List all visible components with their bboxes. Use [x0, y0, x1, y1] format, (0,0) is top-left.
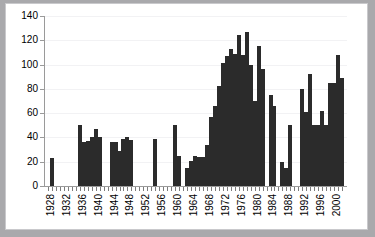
x-axis-tick-label: 1948 — [125, 194, 135, 216]
y-axis-tick-label: 20 — [27, 157, 38, 167]
x-axis-tick — [199, 187, 200, 191]
x-axis-tick — [267, 187, 268, 191]
x-axis-tick — [298, 187, 299, 191]
x-axis-tick — [278, 187, 279, 191]
x-axis-tick-label: 1980 — [253, 194, 263, 216]
x-axis-tick — [167, 187, 168, 191]
x-axis-tick — [171, 187, 172, 191]
y-axis-tick-label: 60 — [27, 108, 38, 118]
x-axis-tick — [314, 187, 315, 191]
x-axis-tick — [175, 187, 176, 191]
x-axis-tick — [247, 187, 248, 191]
x-axis-tick-label: 1952 — [141, 194, 151, 216]
x-axis-tick-label: 1988 — [284, 194, 294, 216]
x-axis-tick — [68, 187, 69, 191]
x-axis-tick — [187, 187, 188, 191]
y-axis-tick-label: 140 — [21, 11, 38, 21]
x-axis-tick-label: 1960 — [173, 194, 183, 216]
x-axis-tick — [131, 187, 132, 191]
bar — [340, 78, 344, 186]
x-axis-tick — [147, 187, 148, 191]
bar — [98, 137, 102, 186]
x-axis-tick-label: 1992 — [300, 194, 310, 216]
x-axis-tick-label: 1940 — [94, 194, 104, 216]
x-axis-tick — [195, 187, 196, 191]
x-axis-tick-label: 1928 — [46, 194, 56, 216]
x-axis-tick-label: 1944 — [110, 194, 120, 216]
x-axis-tick — [108, 187, 109, 191]
x-axis-tick — [203, 187, 204, 191]
x-axis-tick — [211, 187, 212, 191]
x-axis-tick — [326, 187, 327, 191]
x-axis-tick — [255, 187, 256, 191]
x-axis-tick — [318, 187, 319, 191]
x-axis-tick — [92, 187, 93, 191]
bar — [261, 69, 265, 186]
x-axis-tick — [60, 187, 61, 191]
x-axis-tick — [116, 187, 117, 191]
x-axis-tick — [251, 187, 252, 191]
x-axis-tick — [227, 187, 228, 191]
x-axis-tick-label: 1996 — [316, 194, 326, 216]
x-axis-tick — [263, 187, 264, 191]
bar — [177, 156, 181, 186]
x-axis-tick — [235, 187, 236, 191]
x-axis-tick — [274, 187, 275, 191]
x-axis-tick — [271, 187, 272, 191]
x-axis-tick — [88, 187, 89, 191]
x-axis-tick — [334, 187, 335, 191]
x-axis-tick — [56, 187, 57, 191]
x-axis-tick — [342, 187, 343, 191]
chart-frame: 020406080100120140 192819321936194019441… — [5, 3, 368, 230]
x-axis-tick — [104, 187, 105, 191]
x-axis-tick-label: 1936 — [78, 194, 88, 216]
x-axis-tick-label: 1972 — [221, 194, 231, 216]
y-axis-tick-label: 0 — [32, 181, 38, 191]
x-axis-tick — [123, 187, 124, 191]
x-axis-tick — [120, 187, 121, 191]
bar — [50, 158, 54, 186]
x-axis-tick — [231, 187, 232, 191]
x-axis-tick — [179, 187, 180, 191]
x-axis-tick — [282, 187, 283, 191]
bar — [153, 139, 157, 186]
plot-area: 020406080100120140 192819321936194019441… — [44, 16, 346, 186]
x-axis-tick-label: 1964 — [189, 194, 199, 216]
x-axis-tick — [80, 187, 81, 191]
x-axis-tick — [72, 187, 73, 191]
x-axis-tick — [155, 187, 156, 191]
x-axis-tick — [294, 187, 295, 191]
x-axis-tick-label: 1984 — [268, 194, 278, 216]
bar-series — [44, 16, 346, 186]
x-axis-tick — [219, 187, 220, 191]
x-axis-tick — [306, 187, 307, 191]
x-axis-tick — [290, 187, 291, 191]
y-axis-tick-label: 100 — [21, 60, 38, 70]
x-axis-tick — [143, 187, 144, 191]
x-axis-tick — [139, 187, 140, 191]
x-axis-tick — [207, 187, 208, 191]
x-axis-tick — [183, 187, 184, 191]
x-axis-tick — [163, 187, 164, 191]
x-axis-tick — [286, 187, 287, 191]
x-axis-tick-label: 2000 — [332, 194, 342, 216]
x-axis-tick — [243, 187, 244, 191]
x-axis-tick — [239, 187, 240, 191]
x-axis-tick-label: 1976 — [237, 194, 247, 216]
x-axis-tick — [100, 187, 101, 191]
y-axis-tick-label: 40 — [27, 132, 38, 142]
y-axis-tick-label: 80 — [27, 84, 38, 94]
y-axis-tick — [40, 186, 44, 187]
x-axis-tick — [52, 187, 53, 191]
x-axis-tick — [127, 187, 128, 191]
x-axis-tick — [64, 187, 65, 191]
bar — [288, 125, 292, 186]
x-axis-tick — [96, 187, 97, 191]
x-axis-tick — [310, 187, 311, 191]
x-axis-tick-label: 1956 — [157, 194, 167, 216]
x-axis-tick — [191, 187, 192, 191]
x-axis-tick — [76, 187, 77, 191]
x-axis-tick — [215, 187, 216, 191]
x-axis-tick — [338, 187, 339, 191]
x-axis-tick — [259, 187, 260, 191]
